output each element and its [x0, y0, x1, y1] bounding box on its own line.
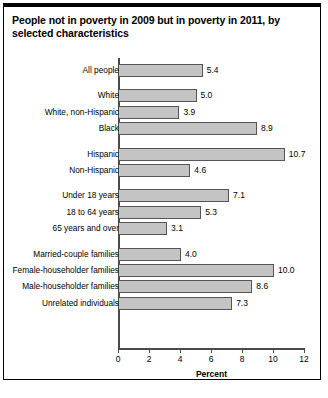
x-tick-label: 10 — [263, 354, 283, 365]
chart-figure: People not in poverty in 2009 but in pov… — [0, 0, 328, 398]
bar — [119, 164, 190, 177]
x-tick-label: 12 — [294, 354, 314, 365]
bar-category-label: Married-couple families — [0, 248, 119, 261]
x-axis-title: Percent — [118, 369, 305, 379]
x-tick-label: 2 — [139, 354, 159, 365]
bar-row: Unrelated individuals7.3 — [0, 297, 328, 310]
bar-category-label: Hispanic — [0, 148, 119, 161]
x-tick — [118, 348, 119, 353]
bar-category-label: White, non-Hispanic — [0, 106, 119, 119]
bar-value-label: 4.0 — [185, 248, 197, 261]
bar — [119, 89, 197, 102]
bar-category-label: Non-Hispanic — [0, 164, 119, 177]
bar-value-label: 4.6 — [194, 164, 206, 177]
bar-category-label: Black — [0, 122, 119, 135]
bar — [119, 297, 232, 310]
x-tick — [242, 348, 243, 353]
bar-category-label: Under 18 years — [0, 189, 119, 202]
bar-value-label: 3.9 — [183, 106, 195, 119]
bar-value-label: 5.3 — [205, 206, 217, 219]
x-tick — [211, 348, 212, 353]
bar-row: Black8.9 — [0, 122, 328, 135]
bar-row: Married-couple families4.0 — [0, 248, 328, 261]
bar — [119, 222, 167, 235]
x-tick-label: 4 — [170, 354, 190, 365]
bar-value-label: 7.1 — [233, 189, 245, 202]
bar-row: All people5.4 — [0, 64, 328, 77]
x-tick — [273, 348, 274, 353]
plot-area: All people5.4White5.0White, non-Hispanic… — [0, 58, 328, 358]
x-tick-label: 6 — [201, 354, 221, 365]
bar — [119, 106, 179, 119]
bar — [119, 206, 201, 219]
bar-category-label: Male-householder families — [0, 280, 119, 293]
bar-row: Hispanic10.7 — [0, 148, 328, 161]
bar-category-label: Unrelated individuals — [0, 297, 119, 310]
bar-row: 65 years and over3.1 — [0, 222, 328, 235]
x-tick — [149, 348, 150, 353]
bar-value-label: 8.6 — [256, 280, 268, 293]
bar-row: Non-Hispanic4.6 — [0, 164, 328, 177]
bar — [119, 264, 274, 277]
bar-category-label: White — [0, 89, 119, 102]
bar-row: White5.0 — [0, 89, 328, 102]
bar-value-label: 8.9 — [261, 122, 273, 135]
bar-value-label: 5.0 — [201, 89, 213, 102]
bar-row: Male-householder families8.6 — [0, 280, 328, 293]
x-tick-label: 8 — [232, 354, 252, 365]
bar-row: White, non-Hispanic3.9 — [0, 106, 328, 119]
bar — [119, 280, 252, 293]
bar-row: 18 to 64 years5.3 — [0, 206, 328, 219]
bar-category-label: Female-householder families — [0, 264, 119, 277]
bar-value-label: 5.4 — [207, 64, 219, 77]
bar-value-label: 7.3 — [236, 297, 248, 310]
bar — [119, 148, 285, 161]
bar-value-label: 3.1 — [171, 222, 183, 235]
bar-value-label: 10.7 — [289, 148, 306, 161]
bar — [119, 248, 181, 261]
bar — [119, 64, 203, 77]
bar-category-label: 18 to 64 years — [0, 206, 119, 219]
page-title: People not in poverty in 2009 but in pov… — [12, 14, 304, 40]
bar — [119, 189, 229, 202]
bar-row: Female-householder families10.0 — [0, 264, 328, 277]
bar — [119, 122, 257, 135]
bar-category-label: 65 years and over — [0, 222, 119, 235]
bar-row: Under 18 years7.1 — [0, 189, 328, 202]
bar-category-label: All people — [0, 64, 119, 77]
x-tick — [304, 348, 305, 353]
bar-value-label: 10.0 — [278, 264, 295, 277]
x-tick-label: 0 — [108, 354, 128, 365]
x-tick — [180, 348, 181, 353]
